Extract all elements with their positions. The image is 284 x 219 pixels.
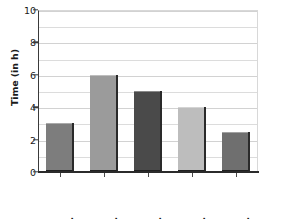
y-tick-label: 10	[4, 5, 36, 16]
y-tick-label: 4	[4, 102, 36, 113]
x-tick-mark	[236, 173, 237, 177]
y-tick-label: 2	[4, 134, 36, 145]
bar-tues[interactable]	[90, 75, 118, 172]
bars-layer	[38, 10, 258, 172]
bar-fri[interactable]	[222, 132, 250, 173]
x-label-fri: Fri.	[240, 217, 251, 219]
x-axis-labels: Mon.Tues.Wed.Thurs.Fri.	[38, 178, 258, 219]
bar-top-highlight	[222, 132, 248, 133]
bar-slot	[178, 10, 206, 172]
x-tick-mark	[148, 173, 149, 177]
y-tick-label: 6	[4, 69, 36, 80]
bar-top-highlight	[90, 75, 116, 76]
bar-slot	[46, 10, 74, 172]
bar-top-highlight	[46, 123, 72, 124]
x-tick-mark	[104, 173, 105, 177]
y-tick-label: 0	[4, 167, 36, 178]
x-label-wed: Wed.	[152, 217, 163, 219]
x-tick-mark	[192, 173, 193, 177]
bar-thurs[interactable]	[178, 107, 206, 172]
x-tick-mark	[60, 173, 61, 177]
y-tick-label: 8	[4, 37, 36, 48]
bar-slot	[222, 10, 250, 172]
x-label-mon: Mon.	[64, 217, 75, 219]
bar-slot	[90, 10, 118, 172]
bar-top-highlight	[178, 107, 204, 108]
bar-wed[interactable]	[134, 91, 162, 172]
y-axis-ticks: 0246810	[0, 0, 36, 219]
bar-slot	[134, 10, 162, 172]
bar-top-highlight	[134, 91, 160, 92]
x-label-thurs: Thurs.	[196, 217, 207, 219]
bar-chart: Time (in h) 0246810 Mon.Tues.Wed.Thurs.F…	[0, 0, 284, 219]
x-label-tues: Tues.	[108, 217, 119, 219]
bar-mon[interactable]	[46, 123, 74, 172]
